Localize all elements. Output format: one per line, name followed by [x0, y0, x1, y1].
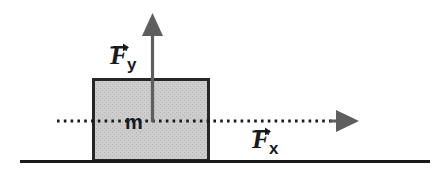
force-x-arrow [330, 110, 359, 132]
diagram-canvas [0, 0, 437, 178]
force-y-label: F y [110, 42, 137, 69]
force-y-symbol: F [110, 40, 128, 70]
force-x-subscript: x [269, 139, 278, 158]
force-y-arrowhead [142, 13, 163, 36]
force-diagram-figure: F y F x m [0, 0, 437, 178]
force-x-label: F x [252, 126, 279, 153]
force-x-symbol: F [252, 124, 270, 154]
force-x-arrowhead [336, 110, 359, 132]
mass-label: m [125, 112, 143, 132]
force-y-subscript: y [127, 55, 136, 74]
